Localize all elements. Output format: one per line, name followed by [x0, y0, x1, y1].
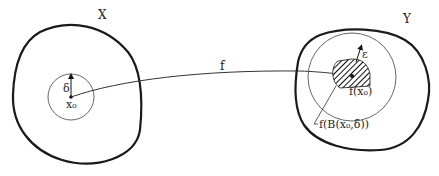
image-region [333, 59, 370, 88]
image-region-label: f(B(x₀,δ)) [319, 118, 369, 131]
map-f-label: f [220, 59, 226, 73]
domain-set-label: X [98, 8, 107, 22]
codomain-set-label: Y [402, 12, 412, 26]
epsilon-label: ε [362, 48, 368, 61]
domain-set-boundary [13, 25, 141, 164]
continuity-diagram: X δ x₀ f Y ε f(x₀) f(B(x₀,δ)) [0, 0, 439, 176]
fx0-label: f(x₀) [349, 85, 372, 98]
map-f-curve [71, 71, 346, 97]
fx0-point [350, 74, 354, 78]
delta-label: δ [63, 82, 70, 95]
x0-label: x₀ [66, 98, 77, 111]
